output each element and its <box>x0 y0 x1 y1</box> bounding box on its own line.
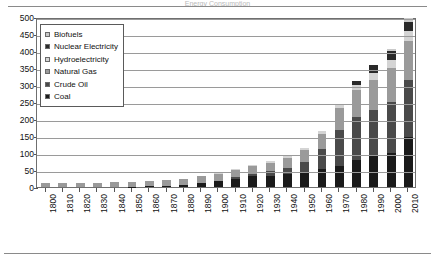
y-axis-tick-label: 100 <box>4 150 34 158</box>
x-axis-tick-mark <box>321 188 322 192</box>
y-axis-tick-label: 200 <box>4 116 34 124</box>
x-axis-tick-mark <box>304 188 305 192</box>
x-axis-tick-mark <box>79 188 80 192</box>
legend-item-label: Natural Gas <box>54 67 97 76</box>
x-axis-tick-label: 1880 <box>187 194 196 213</box>
x-axis-tick-mark <box>373 188 374 192</box>
bar-segment-natural-gas <box>76 183 85 187</box>
x-axis-tick-label: 1830 <box>100 194 109 213</box>
bar-segment-coal <box>248 176 257 187</box>
x-axis-tick-label: 1950 <box>308 194 317 213</box>
x-axis-tick-mark <box>252 188 253 192</box>
bar-segment-coal <box>283 174 292 187</box>
x-axis-tick-label: 1890 <box>204 194 213 213</box>
bar-segment-natural-gas <box>387 68 396 101</box>
bar-1840 <box>110 182 119 187</box>
gridline <box>37 155 415 156</box>
x-axis-tick-mark <box>96 188 97 192</box>
legend-item-label: Crude Oil <box>54 80 88 89</box>
bar-segment-natural-gas <box>369 80 378 110</box>
y-axis-tick-label: 350 <box>4 65 34 73</box>
x-axis-tick-mark <box>45 188 46 192</box>
y-axis-tick-label: 300 <box>4 82 34 90</box>
x-axis-tick-label: 1960 <box>325 194 334 213</box>
x-axis-tick-label: 1980 <box>360 194 369 213</box>
x-axis-tick-mark <box>166 188 167 192</box>
x-axis-tick-label: 1930 <box>273 194 282 213</box>
bar-segment-coal <box>197 183 206 187</box>
legend-item: Nuclear Electricity <box>45 41 118 54</box>
bar-segment-natural-gas <box>266 163 275 171</box>
bar-segment-coal <box>335 166 344 187</box>
legend-item: Coal <box>45 91 118 104</box>
x-axis-tick-label: 1920 <box>256 194 265 213</box>
bar-segment-coal <box>145 186 154 187</box>
y-axis-tick-label: 0 <box>4 184 34 192</box>
y-axis: 050100150200250300350400450500 <box>0 18 34 188</box>
gridline <box>37 138 415 139</box>
chart-legend: BiofuelsNuclear ElectricityHydroelectric… <box>40 24 124 107</box>
bar-segment-coal <box>179 185 188 187</box>
bar-1850 <box>128 182 137 187</box>
bar-1930 <box>266 161 275 187</box>
bar-segment-crude-oil <box>300 162 309 173</box>
y-axis-tick-label: 500 <box>4 14 34 22</box>
bar-segment-coal <box>266 176 275 187</box>
bar-segment-hydroelectricity <box>369 73 378 80</box>
bar-segment-coal <box>300 172 309 187</box>
legend-item-label: Hydroelectricity <box>54 55 109 64</box>
bar-segment-natural-gas <box>283 158 292 168</box>
legend-item: Biofuels <box>45 28 118 41</box>
x-axis-tick-label: 1990 <box>377 194 386 213</box>
bar-1860 <box>145 181 154 187</box>
x-axis-tick-label: 1850 <box>135 194 144 213</box>
bar-1960 <box>318 131 327 187</box>
x-axis-tick-mark <box>407 188 408 192</box>
bar-segment-natural-gas <box>318 134 327 149</box>
bar-segment-crude-oil <box>335 130 344 166</box>
chart-figure: Energy Consumption 050100150200250300350… <box>0 0 435 260</box>
x-axis-tick-mark <box>235 188 236 192</box>
bar-segment-crude-oil <box>387 102 396 154</box>
bar-segment-hydroelectricity <box>387 60 396 68</box>
bar-segment-natural-gas <box>41 183 50 187</box>
bar-segment-crude-oil <box>318 149 327 169</box>
x-axis-tick-mark <box>62 188 63 192</box>
y-axis-tick-label: 50 <box>4 167 34 175</box>
x-axis-tick-label: 1840 <box>118 194 127 213</box>
gridline <box>37 172 415 173</box>
x-axis-tick-label: 2000 <box>394 194 403 213</box>
x-axis-tick-mark <box>286 188 287 192</box>
bar-1970 <box>335 104 344 187</box>
legend-item: Hydroelectricity <box>45 53 118 66</box>
x-axis-tick-label: 1820 <box>83 194 92 213</box>
bar-1990 <box>369 65 378 187</box>
gridline <box>37 19 415 20</box>
legend-swatch-icon <box>45 94 50 99</box>
legend-swatch-icon <box>45 82 50 87</box>
legend-item-label: Nuclear Electricity <box>54 42 118 51</box>
bar-1900 <box>214 173 223 187</box>
x-axis-tick-label: 1900 <box>221 194 230 213</box>
x-axis-tick-mark <box>390 188 391 192</box>
y-axis-tick-label: 400 <box>4 48 34 56</box>
bar-1880 <box>179 179 188 188</box>
bar-segment-natural-gas <box>110 182 119 187</box>
x-axis-tick-label: 1910 <box>239 194 248 213</box>
bar-segment-coal <box>404 137 413 187</box>
legend-item: Crude Oil <box>45 78 118 91</box>
bar-segment-coal <box>162 186 171 187</box>
y-axis-tick-label: 250 <box>4 99 34 107</box>
bar-segment-nuclear-electricity <box>404 22 413 31</box>
x-axis-tick-mark <box>217 188 218 192</box>
x-axis-tick-label: 1940 <box>290 194 299 213</box>
bar-segment-natural-gas <box>214 174 223 181</box>
legend-item: Natural Gas <box>45 66 118 79</box>
y-axis-tick-label: 450 <box>4 31 34 39</box>
bar-segment-coal <box>352 160 361 187</box>
x-axis-tick-mark <box>148 188 149 192</box>
x-axis-tick-label: 1970 <box>342 194 351 213</box>
bar-1810 <box>58 183 67 187</box>
x-axis-tick-mark <box>269 188 270 192</box>
bar-segment-natural-gas <box>335 108 344 129</box>
